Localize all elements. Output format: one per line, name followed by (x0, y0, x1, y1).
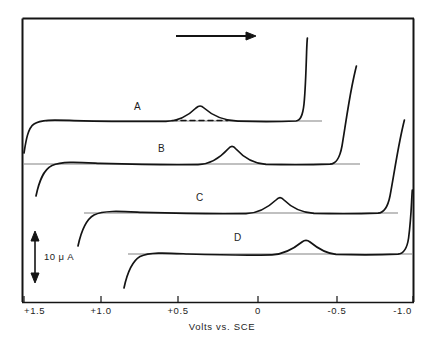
x-tick-label-0: +1.5 (24, 305, 45, 316)
curve-label-b: B (158, 143, 165, 154)
x-tick-label-4: -0.5 (328, 305, 347, 316)
figure-background (0, 0, 431, 340)
x-tick-label-3: 0 (255, 305, 261, 316)
curve-label-c: C (196, 192, 204, 203)
x-tick-label-5: -1.0 (393, 305, 412, 316)
x-axis-title: Volts vs. SCE (189, 321, 256, 332)
curve-label-d: D (234, 232, 242, 243)
scale-bar-label: 10 μ A (44, 251, 74, 262)
curve-label-a: A (134, 101, 141, 112)
voltammogram-figure: A B C D 10 μ A (0, 0, 431, 340)
x-tick-label-1: +1.0 (90, 305, 111, 316)
voltammogram-canvas: A B C D 10 μ A (0, 0, 431, 340)
x-tick-label-2: +0.5 (167, 305, 188, 316)
